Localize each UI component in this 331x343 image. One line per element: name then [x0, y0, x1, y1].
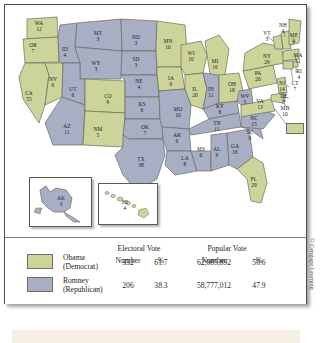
legend-electoral-pct-romney: 38.3 — [154, 281, 167, 290]
state-shape-ND — [121, 19, 157, 51]
state-shape-WA — [27, 17, 58, 39]
legend-popular-pct-romney: 47.9 — [252, 281, 265, 290]
legend-party-obama: (Democrat) — [63, 262, 98, 271]
state-shape-OK — [123, 119, 163, 139]
electoral-map-figure: WA12OR7CA55NV6ID4MT3WY3UT6AZ11CO9NM5ND3S… — [0, 0, 331, 343]
legend-candidate-romney: Romney — [63, 276, 89, 285]
state-shape-SD — [121, 51, 157, 75]
state-shape-MT — [75, 19, 122, 51]
alaska-inset: AK 3 — [29, 177, 92, 227]
legend-party-romney: (Republican) — [63, 285, 103, 294]
legend-table: Electoral Vote Popular Vote Number % Num… — [5, 237, 306, 304]
figure-frame: WA12OR7CA55NV6ID4MT3WY3UT6AZ11CO9NM5ND3S… — [4, 4, 307, 304]
state-shape-CO — [85, 79, 125, 113]
state-shape-NM — [83, 111, 125, 147]
state-shape-CA — [19, 63, 49, 123]
state-shape-WI — [181, 41, 207, 75]
state-shape-RI — [293, 61, 298, 67]
legend-group-header-electoral: Electoral Vote — [118, 244, 161, 253]
state-shape-MO — [159, 89, 191, 129]
state-shape-AL — [211, 133, 229, 171]
state-shape-MA — [283, 49, 299, 61]
state-shape-NE — [121, 75, 159, 97]
legend-electoral-pct-obama: 61.7 — [154, 258, 167, 267]
state-shape-KS — [125, 97, 160, 119]
hawaii-shape-svg — [99, 184, 157, 224]
state-shape-AR — [162, 127, 191, 151]
state-shape-OR — [23, 37, 59, 63]
hawaii-inset: HI 4 — [98, 183, 158, 225]
state-shape-MI — [205, 35, 229, 79]
legend-swatch-obama — [27, 254, 53, 269]
legend-popular-number-romney: 58,777,012 — [197, 281, 231, 290]
legend-group-header-popular: Popular Vote — [207, 244, 246, 253]
legend-electoral-number-romney: 206 — [122, 281, 133, 290]
legend-popular-number-obama: 62,085,892 — [197, 258, 231, 267]
legend-candidate-obama: Obama — [63, 253, 85, 262]
state-shape-IA — [157, 67, 185, 91]
map-panel: WA12OR7CA55NV6ID4MT3WY3UT6AZ11CO9NM5ND3S… — [5, 5, 306, 237]
legend-popular-pct-obama: 50.6 — [252, 258, 265, 267]
legend-divider — [5, 237, 306, 238]
copyright-credit: © Cengage Learning — [309, 238, 316, 290]
state-shape-AZ — [45, 97, 85, 145]
dc-swatch — [286, 123, 304, 134]
legend-electoral-number-obama: 332 — [122, 258, 133, 267]
state-shape-MD — [271, 93, 283, 103]
state-shape-WV — [237, 89, 253, 105]
state-shape-WY — [75, 47, 122, 79]
state-shape-NV — [45, 63, 63, 105]
legend-swatch-romney — [27, 277, 53, 292]
state-shape-ME — [289, 19, 301, 45]
state-shape-CT — [283, 61, 293, 69]
alaska-shape-svg — [30, 178, 91, 226]
state-shape-NJ — [277, 77, 287, 93]
page-bottom-strip — [12, 330, 300, 343]
